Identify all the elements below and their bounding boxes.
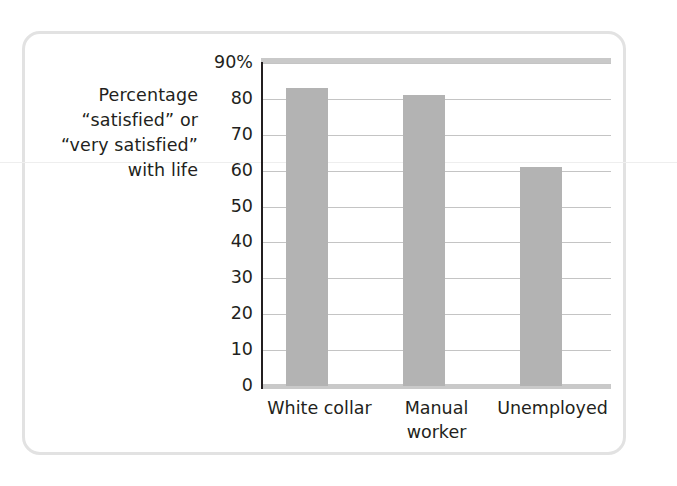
- y-tick-label: 40: [193, 233, 253, 251]
- y-axis-title-line-1: Percentage: [58, 83, 198, 108]
- y-axis-tick-labels: 0102030405060708090%: [193, 58, 253, 389]
- chart-figure: Percentage “satisfied” or “very satisfie…: [0, 0, 677, 486]
- x-tick-label: Unemployed: [482, 396, 623, 420]
- y-tick-label: 80: [193, 90, 253, 108]
- y-axis-title-line-3: “very satisfied”: [58, 133, 198, 158]
- y-tick-label: 10: [193, 341, 253, 359]
- y-tick-label: 70: [193, 126, 253, 144]
- y-tick-label: 0: [193, 377, 253, 395]
- x-axis-tick-labels: White collarManual workerUnemployed: [247, 396, 627, 456]
- y-tick-label: 50: [193, 198, 253, 216]
- bar: [520, 167, 562, 386]
- y-tick-label: 30: [193, 269, 253, 287]
- y-tick-label: 90%: [193, 54, 253, 72]
- y-axis-title: Percentage “satisfied” or “very satisfie…: [58, 83, 198, 183]
- bar: [286, 88, 328, 386]
- y-tick-label: 60: [193, 162, 253, 180]
- bar-series: [261, 58, 611, 386]
- y-axis-title-line-4: with life: [58, 158, 198, 183]
- bar: [403, 95, 445, 386]
- y-tick-label: 20: [193, 305, 253, 323]
- y-axis-title-line-2: “satisfied” or: [58, 108, 198, 133]
